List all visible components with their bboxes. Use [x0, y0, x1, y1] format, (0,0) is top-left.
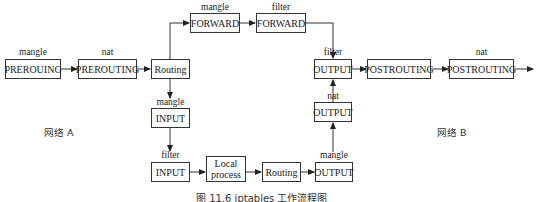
table-label-mangle: mangle	[151, 97, 190, 107]
node-output-filter: OUTPUT	[314, 59, 352, 79]
node-input-filter: INPUT	[151, 162, 190, 182]
node-postrouting-nat: POSTROUTING	[449, 59, 514, 79]
network-b-label: 网络 B	[437, 125, 467, 139]
table-label-nat: nat	[314, 91, 352, 101]
node-output-nat: OUTPUT	[314, 102, 352, 122]
node-forward-filter: FORWARD	[256, 13, 306, 33]
chain-label-line1: Local	[215, 158, 238, 169]
chain-label: INPUT	[156, 167, 185, 178]
table-label-mangle: mangle	[5, 47, 61, 57]
figure-caption: 图 11.6 iptables 工作流程图	[196, 190, 327, 202]
chain-label: Routing	[265, 167, 297, 178]
chain-label: PREROUTING	[76, 64, 139, 75]
chain-label: Routing	[154, 64, 186, 75]
chain-label: PREROUING	[4, 64, 61, 75]
node-postrouting-mangle: POSTROUTING	[367, 59, 431, 79]
chain-label: OUTPUT	[313, 64, 352, 75]
table-label-mangle: mangle	[190, 2, 240, 12]
chain-label: FORWARD	[191, 18, 239, 29]
table-label-filter: filter	[151, 150, 190, 160]
chain-label: FORWARD	[257, 18, 305, 29]
chain-label: INPUT	[156, 113, 185, 124]
node-forward-mangle: FORWARD	[190, 13, 240, 33]
node-routing-local: Routing	[262, 162, 301, 182]
node-prerouting-nat: PREROUTING	[78, 59, 137, 79]
table-label-nat: nat	[78, 47, 137, 57]
chain-label-line2: process	[211, 169, 241, 180]
chain-label: OUTPUT	[314, 167, 353, 178]
table-label-nat: nat	[449, 47, 514, 57]
chain-label: OUTPUT	[313, 107, 352, 118]
table-label-filter: filter	[314, 47, 352, 57]
table-label-mangle: mangle	[315, 150, 353, 160]
table-label-filter: filter	[256, 2, 306, 12]
node-input-mangle: INPUT	[151, 108, 190, 128]
iptables-flow-diagram: 网络 A 网络 B mangle PREROUING nat PREROUTIN…	[0, 0, 537, 202]
node-local-process: Local process	[206, 156, 246, 182]
chain-label: POSTROUTING	[447, 64, 516, 75]
node-output-mangle: OUTPUT	[315, 162, 353, 182]
network-a-label: 网络 A	[44, 125, 74, 139]
chain-label: POSTROUTING	[364, 64, 433, 75]
node-routing-decision: Routing	[151, 59, 190, 79]
node-prerouting-mangle: PREROUING	[5, 59, 61, 79]
